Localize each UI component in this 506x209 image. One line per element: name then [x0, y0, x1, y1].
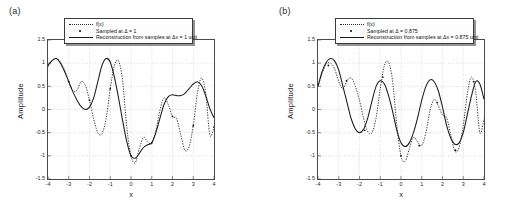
x-tick-label: -2: [353, 182, 367, 187]
figure-panel-a: (a) Amplitude -1.5-1-0.500.511.5 -4-3-2-…: [0, 0, 253, 209]
y-tick-label: -1.5: [21, 176, 45, 181]
x-tick-label: 1: [415, 182, 429, 187]
panel-b-y-ticks: -1.5-1-0.500.511.5: [289, 39, 315, 180]
legend-item: Reconstruction from samples at Δx = 0.87…: [339, 34, 470, 41]
y-tick-label: 0: [291, 107, 315, 112]
y-tick-label: 1.5: [291, 37, 315, 42]
legend-label: f(x): [367, 21, 375, 28]
x-tick-label: -3: [332, 182, 346, 187]
sample-point: [346, 80, 348, 82]
panel-a-x-axis-label: x: [47, 190, 215, 199]
y-tick-label: 1.5: [21, 37, 45, 42]
y-tick-label: -1: [291, 153, 315, 158]
y-tick-label: 0: [21, 107, 45, 112]
dotted-line-icon: [339, 21, 365, 28]
legend-item: f(x): [339, 21, 470, 28]
y-tick-label: 0.5: [21, 84, 45, 89]
legend-label: Reconstruction from samples at Δx = 0.87…: [367, 34, 478, 41]
sample-point: [192, 125, 194, 127]
sample-point: [400, 155, 402, 157]
legend-label: Sampled at Δ = 1: [96, 28, 136, 35]
sample-point: [109, 88, 111, 90]
sample-point: [418, 145, 420, 147]
sample-point: [436, 102, 438, 104]
y-tick-label: -1.5: [291, 176, 315, 181]
sample-point: [327, 65, 329, 67]
legend-item: f(x): [68, 21, 189, 28]
legend-label: Sampled at Δ = 0.875: [367, 28, 418, 35]
x-tick-label: 2: [436, 182, 450, 187]
y-tick-label: 1: [21, 60, 45, 65]
sample-point: [473, 81, 475, 83]
x-tick-label: 3: [186, 182, 200, 187]
x-tick-label: 3: [456, 182, 470, 187]
x-tick-label: 0: [124, 182, 138, 187]
y-tick-label: -0.5: [21, 130, 45, 135]
panel-a-curves: [48, 40, 214, 179]
panel-b-x-axis-label: x: [317, 190, 485, 199]
legend-item: Reconstruction from samples at Δx = 1 un…: [68, 34, 189, 41]
legend-label: Reconstruction from samples at Δx = 1 un…: [96, 34, 197, 41]
x-tick-label: 1: [145, 182, 159, 187]
y-tick-label: 0.5: [291, 84, 315, 89]
x-tick-label: 2: [166, 182, 180, 187]
sample-point: [364, 129, 366, 131]
x-tick-label: -1: [373, 182, 387, 187]
x-tick-label: -1: [103, 182, 117, 187]
panel-b-curves: [318, 40, 484, 179]
panel-a-legend: f(x) Sampled at Δ = 1 Reconstruction fro…: [64, 18, 193, 44]
x-tick-label: -3: [62, 182, 76, 187]
x-tick-label: -2: [83, 182, 97, 187]
x-tick-label: -4: [311, 182, 325, 187]
point-marker-icon: [339, 28, 365, 35]
sample-point: [382, 76, 384, 78]
legend-label: f(x): [96, 21, 104, 28]
solid-line-icon: [68, 34, 94, 41]
panel-a-plot-area: [47, 39, 215, 180]
legend-item: Sampled at Δ = 0.875: [339, 28, 470, 35]
panel-b-legend: f(x) Sampled at Δ = 0.875 Reconstruction…: [335, 18, 474, 44]
solid-line-icon: [339, 34, 365, 41]
x-tick-label: 4: [477, 182, 491, 187]
x-tick-label: 4: [207, 182, 221, 187]
panel-a-y-ticks: -1.5-1-0.500.511.5: [19, 39, 45, 180]
sample-point: [455, 149, 457, 151]
legend-item: Sampled at Δ = 1: [68, 28, 189, 35]
panel-b-plot-area: [317, 39, 485, 180]
figure-panel-b: (b) Amplitude -1.5-1-0.500.511.5 -4-3-2-…: [253, 0, 506, 209]
y-tick-label: -1: [21, 153, 45, 158]
x-tick-label: 0: [394, 182, 408, 187]
dotted-line-icon: [68, 21, 94, 28]
x-tick-label: -4: [41, 182, 55, 187]
sample-point: [89, 99, 91, 101]
point-marker-icon: [68, 28, 94, 35]
y-tick-label: -0.5: [291, 130, 315, 135]
sample-point: [213, 126, 214, 128]
sample-point: [172, 116, 174, 118]
y-tick-label: 1: [291, 60, 315, 65]
